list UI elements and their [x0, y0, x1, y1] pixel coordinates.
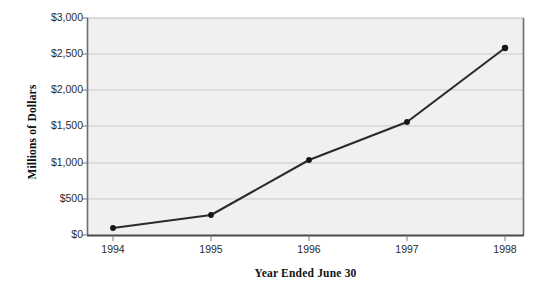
line-chart-figure: $3,000 $2,500 $2,000 $1,500 $1,000 $500 … — [0, 0, 556, 296]
x-tick-label-1997: 1997 — [377, 243, 437, 255]
y-axis-title: Millions of Dollars — [24, 12, 40, 252]
x-tick-label-1998: 1998 — [475, 243, 535, 255]
x-axis-title: Year Ended June 30 — [87, 267, 524, 279]
x-tick-label-1996: 1996 — [279, 243, 339, 255]
x-tick-label-1995: 1995 — [181, 243, 241, 255]
x-axis-tick-labels: 1994 1995 1996 1997 1998 — [0, 0, 556, 296]
x-tick-label-1994: 1994 — [83, 243, 143, 255]
